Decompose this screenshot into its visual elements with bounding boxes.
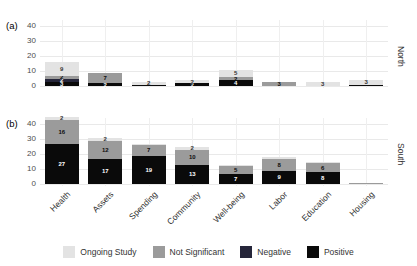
segment-value-label: 2 — [60, 115, 63, 121]
legend: Ongoing StudyNot SignificantNegativePosi… — [0, 246, 417, 258]
segment-value-label: 5 — [234, 167, 237, 173]
bar-segment-ongoing-study: 2 — [175, 147, 209, 150]
legend-swatch — [153, 246, 165, 258]
gridline-x-7 — [366, 118, 367, 186]
legend-label: Negative — [257, 247, 291, 257]
bar-segment-not-significant: 2 — [219, 77, 253, 80]
bar-segment-positive: 17 — [88, 159, 122, 185]
segment-value-label: 16 — [58, 129, 65, 135]
segment-value-label: 6 — [321, 165, 324, 171]
legend-swatch — [240, 246, 252, 258]
legend-label: Not Significant — [170, 247, 225, 257]
legend-item-not-significant: Not Significant — [153, 246, 225, 258]
bar-segment-not-significant: 10 — [175, 150, 209, 165]
segment-value-label: 2 — [147, 80, 150, 86]
stacked-bar-chart: 010203040(a)North32292722242533301020304… — [0, 0, 417, 266]
bar-segment-not-significant: 7 — [88, 73, 122, 84]
bar-segment-ongoing-study: 9 — [45, 62, 79, 76]
bar-segment-ongoing-study — [219, 165, 253, 167]
segment-value-label: 7 — [104, 75, 107, 81]
gridline-x-7 — [366, 20, 367, 88]
bar-segment-not-significant: 3 — [262, 82, 296, 87]
segment-value-label: 8 — [321, 175, 324, 181]
segment-value-label: 7 — [147, 147, 150, 153]
bar-segment-positive: 27 — [45, 144, 79, 185]
bar-segment-not-significant: 7 — [132, 145, 166, 156]
segment-value-label: 9 — [278, 174, 281, 180]
y-tick-label: 20 — [14, 51, 36, 61]
bar-segment-ongoing-study: 3 — [349, 80, 383, 85]
segment-value-label: 2 — [104, 136, 107, 142]
bar-segment-not-significant: 6 — [306, 163, 340, 172]
bar-segment-positive: 13 — [175, 165, 209, 185]
segment-value-label: 12 — [102, 147, 109, 153]
segment-value-label: 17 — [102, 168, 109, 174]
legend-item-positive: Positive — [307, 246, 354, 258]
gridline-y-0 — [40, 86, 388, 87]
bar-segment-ongoing-study: 3 — [306, 82, 340, 87]
segment-value-label: 5 — [234, 70, 237, 76]
gridline-y-40 — [40, 124, 388, 125]
bar-segment-not-significant: 16 — [45, 120, 79, 144]
bar-segment-positive: 2 — [88, 83, 122, 86]
y-tick-label: 10 — [14, 66, 36, 76]
y-tick-label: 10 — [14, 164, 36, 174]
segment-value-label: 3 — [278, 81, 281, 87]
bar-segment-ongoing-study — [306, 162, 340, 164]
gridline-y-0 — [40, 184, 388, 185]
segment-value-label: 3 — [365, 79, 368, 85]
y-tick-label: 0 — [14, 81, 36, 91]
bar-segment-positive: 8 — [306, 172, 340, 184]
segment-value-label: 27 — [58, 161, 65, 167]
y-tick-label: 30 — [14, 36, 36, 46]
bar-segment-ongoing-study: 2 — [45, 117, 79, 120]
bar-segment-not-significant — [349, 183, 383, 185]
legend-swatch — [307, 246, 319, 258]
bar-segment-ongoing-study: 2 — [175, 80, 209, 83]
segment-value-label: 7 — [234, 176, 237, 182]
legend-item-ongoing-study: Ongoing Study — [63, 246, 136, 258]
gridline-x-6 — [323, 20, 324, 88]
panel-letter: (b) — [6, 118, 18, 129]
gridline-y-30 — [40, 41, 388, 42]
segment-value-label: 8 — [278, 162, 281, 168]
bar-segment-not-significant: 2 — [45, 76, 79, 79]
y-tick-label: 20 — [14, 149, 36, 159]
bar-segment-ongoing-study: 2 — [88, 138, 122, 141]
legend-swatch — [63, 246, 75, 258]
bar-segment-ongoing-study — [262, 157, 296, 159]
bar-segment-not-significant: 8 — [262, 159, 296, 171]
bar-segment-ongoing-study: 5 — [219, 70, 253, 78]
bar-segment-not-significant: 5 — [219, 166, 253, 174]
legend-label: Positive — [324, 247, 354, 257]
segment-value-label: 2 — [191, 79, 194, 85]
bar-segment-ongoing-study: 2 — [132, 82, 166, 85]
segment-value-label: 19 — [145, 167, 152, 173]
segment-value-label: 10 — [189, 154, 196, 160]
gridline-y-40 — [40, 26, 388, 27]
bar-segment-positive: 19 — [132, 156, 166, 185]
gridline-x-2 — [149, 20, 150, 88]
y-tick-label: 0 — [14, 179, 36, 189]
segment-value-label: 2 — [191, 145, 194, 151]
panel-letter: (a) — [6, 20, 18, 31]
segment-value-label: 13 — [189, 171, 196, 177]
legend-item-negative: Negative — [240, 246, 291, 258]
bar-segment-positive: 9 — [262, 171, 296, 185]
gridline-y-20 — [40, 56, 388, 57]
bar-segment-ongoing-study — [132, 144, 166, 146]
facet-strip-label: South — [396, 132, 406, 176]
facet-strip-label: North — [396, 34, 406, 78]
y-tick-label: 30 — [14, 134, 36, 144]
legend-label: Ongoing Study — [80, 247, 136, 257]
bar-segment-positive: 7 — [219, 174, 253, 185]
segment-value-label: 9 — [60, 66, 63, 72]
bar-segment-not-significant: 12 — [88, 141, 122, 159]
segment-value-label: 3 — [321, 81, 324, 87]
gridline-x-5 — [279, 20, 280, 88]
